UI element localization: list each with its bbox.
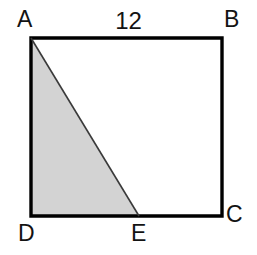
vertex-label-d: D	[18, 222, 35, 245]
vertex-label-e: E	[131, 222, 146, 245]
geometry-canvas	[0, 0, 257, 255]
vertex-label-c: C	[226, 203, 243, 226]
vertex-label-b: B	[224, 8, 239, 31]
side-length-label-ab: 12	[0, 9, 257, 33]
vertex-label-a: A	[17, 8, 32, 31]
geometry-figure: 12 A B C D E	[0, 0, 257, 255]
